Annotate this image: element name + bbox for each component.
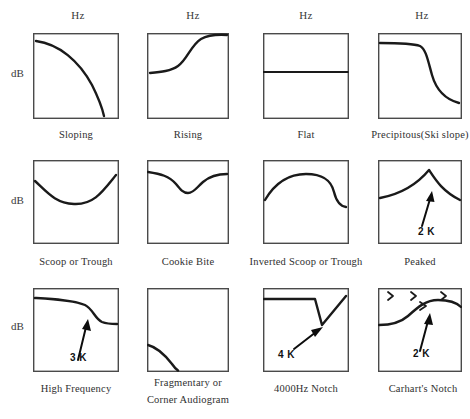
annotation-notch-4k: 4 K: [278, 349, 295, 360]
caption-precipitous: Precipitous(Ski slope): [361, 129, 470, 140]
caption-fragmentary-line1: Fragmentary or: [140, 377, 236, 388]
panel-rising: [147, 33, 229, 119]
caption-cookie-bite: Cookie Bite: [142, 256, 234, 267]
panel-fragmentary: [147, 288, 229, 372]
caption-high-frequency: High Frequency: [26, 383, 126, 394]
audiogram-shapes-figure: Hz Hz Hz Hz dB dB dB Sloping Rising Flat…: [0, 0, 470, 419]
caption-flat: Flat: [256, 129, 356, 140]
annotation-carhart-2k: 2 K: [413, 348, 430, 359]
y-axis-label-row2: dB: [4, 194, 31, 206]
caption-inverted-scoop: Inverted Scoop or Trough: [245, 256, 367, 267]
caption-scoop: Scoop or Trough: [20, 256, 132, 267]
caption-sloping: Sloping: [26, 129, 126, 140]
caption-peaked: Peaked: [380, 256, 460, 267]
caption-fragmentary-line2: Corner Audiogram: [134, 394, 242, 405]
x-axis-label-col3: Hz: [283, 9, 329, 21]
caption-rising: Rising: [140, 129, 236, 140]
annotation-peaked-2k: 2 K: [418, 226, 435, 237]
panel-scoop: [33, 160, 119, 244]
caption-carhart-notch: Carhart's Notch: [370, 383, 470, 394]
x-axis-label-col1: Hz: [55, 9, 101, 21]
panel-sloping: [33, 33, 119, 119]
y-axis-label-row3: dB: [4, 320, 31, 332]
panel-notch-4k: [263, 288, 349, 372]
x-axis-label-col4: Hz: [399, 9, 445, 21]
panel-carhart-notch: [378, 288, 462, 372]
panel-cookie-bite: [147, 160, 229, 244]
x-axis-label-col2: Hz: [170, 9, 216, 21]
caption-notch-4k: 4000Hz Notch: [256, 383, 356, 394]
panel-flat: [263, 33, 349, 119]
panel-precipitous: [378, 33, 462, 119]
y-axis-label-row1: dB: [4, 67, 31, 79]
annotation-high-frequency-3k: 3 K: [70, 352, 87, 363]
panel-inverted-scoop: [263, 160, 349, 244]
